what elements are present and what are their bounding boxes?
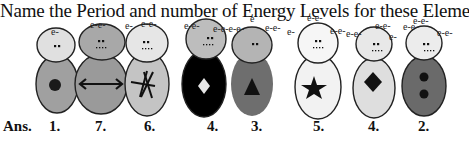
dot-icon [420, 73, 429, 82]
answer-6: 5. [313, 118, 324, 135]
svg-text:e-: e- [125, 20, 133, 31]
svg-text:e-e-: e-e- [346, 28, 362, 39]
dot-icon [420, 90, 429, 99]
figure-2 [75, 24, 127, 114]
svg-text:e-e-: e-e- [184, 20, 200, 31]
svg-text:e-e-: e-e- [90, 19, 106, 30]
answer-4: 4. [207, 118, 218, 135]
svg-text:e-e-: e-e- [330, 25, 346, 36]
answer-prefix: Ans. [3, 118, 32, 135]
circle-symbol-icon [49, 79, 61, 91]
svg-text:e-e-: e-e- [141, 18, 157, 29]
svg-text:e-e-: e-e- [265, 22, 281, 33]
answer-8: 2. [418, 118, 429, 135]
svg-text:e-e-: e-e- [307, 12, 323, 23]
figure-6 [295, 23, 341, 119]
svg-text:e-e-: e-e- [413, 15, 429, 26]
answer-3: 6. [144, 118, 155, 135]
figure-3 [125, 24, 169, 116]
figure-8 [402, 26, 446, 116]
answer-5: 3. [251, 118, 262, 135]
figure-1 [36, 28, 78, 113]
answer-2: 7. [95, 118, 106, 135]
figure-5 [231, 27, 273, 116]
svg-text:e-e-: e-e- [437, 27, 453, 38]
answer-7: 4. [368, 118, 379, 135]
svg-text:e: e [250, 13, 255, 24]
svg-text:e-: e- [287, 26, 295, 37]
svg-text:e-: e- [389, 31, 397, 42]
svg-text:e-e-e-e-: e-e-e-e- [213, 23, 244, 34]
answer-1: 1. [49, 118, 60, 135]
svg-text:e-e-: e-e- [375, 20, 391, 31]
element-figures: e- e-e- e-e-e- e-e-e-e-e-e- ee-e- e-e-e-… [0, 0, 469, 141]
svg-text:e-: e- [51, 26, 59, 37]
